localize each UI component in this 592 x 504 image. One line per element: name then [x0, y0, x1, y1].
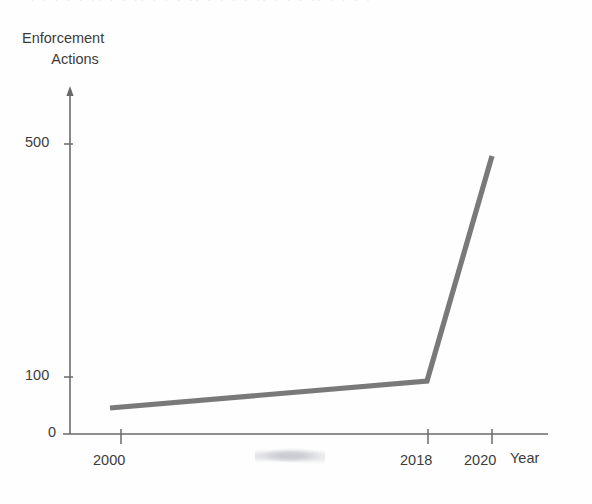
- x-tick-label-2018: 2018: [400, 452, 432, 468]
- x-axis-ticks: [121, 429, 492, 444]
- y-tick-label-500: 500: [25, 134, 49, 150]
- chart-plot-area: [0, 0, 592, 504]
- x-tick-label-2000: 2000: [93, 452, 125, 468]
- x-tick-label-2020: 2020: [464, 452, 496, 468]
- chart-page: · · · · · ·· · · ·· · · · ·· · · · · ·· …: [0, 0, 592, 504]
- x-axis-title: Year: [510, 450, 539, 466]
- y-axis-arrow-icon: [66, 86, 73, 96]
- y-tick-label-0: 0: [48, 424, 56, 440]
- y-tick-label-100: 100: [25, 367, 49, 383]
- scan-artifact-smudge: [255, 448, 325, 464]
- y-axis-ticks: [64, 144, 73, 377]
- data-series-line: [110, 156, 492, 408]
- y-axis: [66, 86, 73, 434]
